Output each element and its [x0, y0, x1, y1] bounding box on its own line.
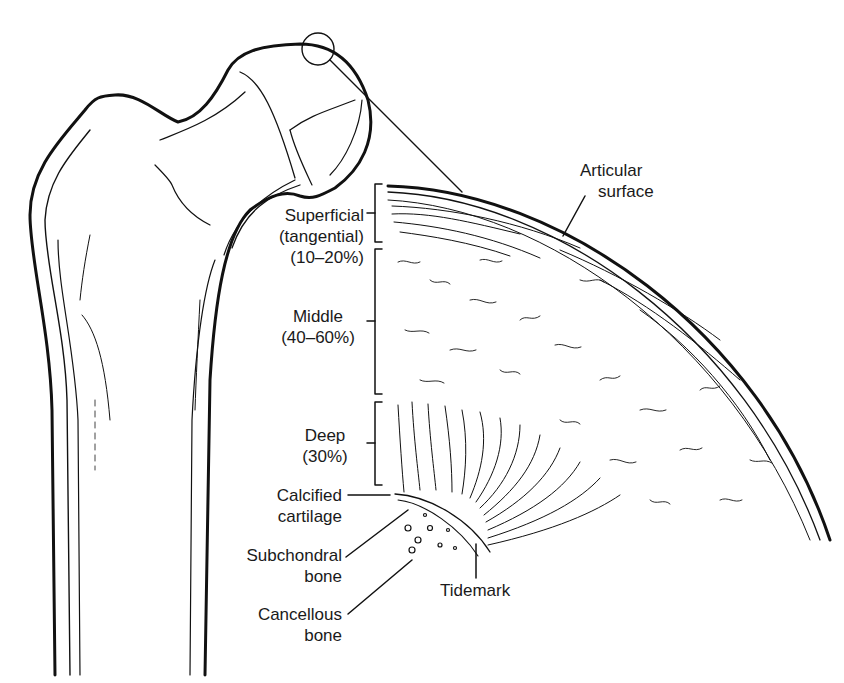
label-superficial-zone: Superficial (tangential) (10–20%) — [240, 205, 364, 268]
cartilage-section — [388, 186, 830, 556]
label-middle-zone: Middle (40–60%) — [270, 306, 366, 348]
label-calcified-cartilage: Calcified cartilage — [230, 485, 342, 527]
label-articular-surface: Articular surface — [580, 160, 654, 202]
illustration — [0, 0, 844, 683]
label-subchondral-bone: Subchondral bone — [220, 545, 342, 587]
leader-lines — [346, 184, 585, 614]
label-cancellous-bone: Cancellous bone — [220, 604, 342, 646]
label-deep-zone: Deep (30%) — [290, 425, 360, 467]
cartilage-zones-diagram: Articular surface Superficial (tangentia… — [0, 0, 844, 683]
label-tidemark: Tidemark — [440, 580, 510, 601]
